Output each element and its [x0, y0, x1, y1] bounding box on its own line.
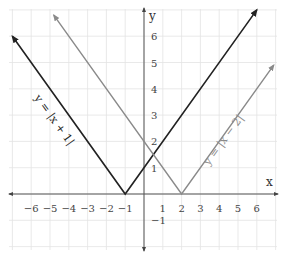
curve-labels: y = |x + 1|y = |x − 2| [30, 91, 247, 169]
y-tick-label: −1 [151, 215, 166, 226]
x-tick-label: 5 [235, 203, 241, 214]
x-tick-label: −5 [43, 203, 58, 214]
curve-abs-x-minus-2 [54, 15, 274, 194]
y-tick-label: 5 [151, 58, 157, 69]
x-tick-label: −4 [61, 203, 76, 214]
y-tick-label: 6 [151, 31, 157, 42]
y-axis-label: y [148, 9, 156, 23]
y-tick-label: 2 [151, 136, 157, 147]
x-tick-label: −6 [24, 203, 39, 214]
x-tick-label: 6 [254, 203, 260, 214]
x-tick-label: −1 [118, 203, 133, 214]
x-tick-label: 2 [178, 203, 184, 214]
y-tick-label: 4 [151, 84, 157, 95]
curve-label-abs-x-minus-2: y = |x − 2| [200, 112, 247, 169]
x-tick-label: 1 [160, 203, 166, 214]
x-tick-label: −3 [80, 203, 95, 214]
curve-label-abs-x-plus-1: y = |x + 1| [30, 91, 77, 148]
curves [12, 10, 273, 194]
x-axis-label: x [266, 175, 273, 189]
y-tick-label: 3 [151, 110, 157, 121]
x-tick-label: 3 [197, 203, 203, 214]
x-tick-label: −2 [99, 203, 114, 214]
graph-plot: xy −6−5−4−3−2−1123456−1123456 y = |x + 1… [0, 0, 289, 255]
x-tick-label: 4 [216, 203, 222, 214]
y-tick-label: 1 [151, 163, 157, 174]
